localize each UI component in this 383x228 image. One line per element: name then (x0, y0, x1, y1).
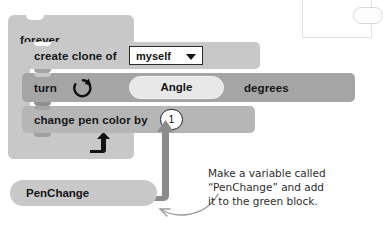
block-notch (34, 106, 51, 110)
block-turn-clockwise[interactable]: turn Angle degrees (22, 73, 355, 102)
block-create-clone-of[interactable]: create clone of myself (22, 42, 260, 69)
annotation-line-2: “PenChange” and add (208, 180, 358, 194)
turn-label: turn (34, 82, 57, 94)
degrees-label: degrees (244, 82, 289, 94)
clone-target-value: myself (136, 50, 171, 62)
turn-clockwise-icon (72, 78, 94, 98)
rounded-pill-icon (353, 7, 383, 24)
block-notch (34, 73, 51, 77)
chevron-down-icon (186, 54, 196, 60)
variable-name-label: PenChange (26, 187, 89, 199)
annotation-line-3: it to the green block. (208, 194, 358, 208)
block-notch (34, 42, 51, 46)
change-pen-color-label: change pen color by (34, 114, 148, 126)
block-change-pen-color-by[interactable]: change pen color by 1 (22, 106, 255, 133)
loop-back-arrow-icon (88, 132, 116, 154)
block-bump (34, 133, 51, 137)
create-clone-label: create clone of (34, 50, 117, 62)
angle-input-slot[interactable]: Angle (129, 76, 224, 99)
corner-panel-fragment (302, 0, 372, 38)
clone-target-dropdown[interactable]: myself (129, 46, 203, 65)
forever-top-notch (26, 15, 44, 20)
annotation-text: Make a variable called “PenChange” and a… (208, 166, 358, 208)
angle-slot-value: Angle (130, 81, 223, 93)
annotation-line-1: Make a variable called (208, 166, 358, 180)
variable-pill-penchange[interactable]: PenChange (10, 180, 157, 206)
